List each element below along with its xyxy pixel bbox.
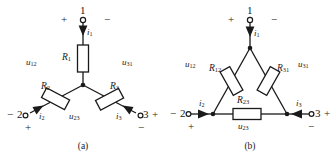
resistor-r3-label: R3 (110, 82, 119, 92)
resistor-r31-subscript: 31 (283, 66, 289, 73)
resistor-r1-label: R1 (62, 53, 71, 63)
resistor-r23-label: R23 (237, 96, 249, 106)
current-i3-label: i3 (116, 112, 121, 121)
panel-b-caption: (b) (167, 141, 333, 151)
voltage-u12-label: u12 (185, 60, 195, 69)
terminal-3-node (309, 112, 314, 117)
current-i3-subscript: 3 (119, 115, 122, 121)
voltage-u12-subscript: 12 (190, 63, 196, 69)
panel-a-caption: (a) (0, 141, 166, 151)
current-i1-label: i1 (87, 28, 92, 37)
terminal-1-node (80, 17, 85, 22)
voltage-u12-subscript: 12 (31, 61, 37, 67)
resistor-r31-label: R31 (277, 64, 289, 74)
resistor-r23-subscript: 23 (243, 98, 249, 105)
resistor-r2-label: R2 (41, 82, 50, 92)
terminal-2-sign-left: − (170, 108, 176, 119)
terminal-3-sign-below: − (308, 121, 314, 132)
current-i2-subscript: 2 (202, 102, 205, 108)
terminal-3-label: 3 (315, 108, 321, 119)
voltage-u31-label: u31 (298, 60, 308, 69)
circuit-diagram-wye: 1 + − i1 R1 u12 u31 R2 R3 − 2 + i2 u23 i… (0, 0, 166, 163)
resistor-r1-body (78, 45, 89, 72)
terminal-1-sign-left: + (228, 14, 234, 25)
terminal-1-sign-left: + (61, 14, 67, 25)
terminal-2-label: 2 (180, 108, 186, 119)
voltage-u12-label: u12 (26, 58, 36, 67)
voltage-u31-subscript: 31 (303, 63, 309, 69)
current-i3-label: i3 (296, 99, 301, 108)
resistor-r12-body (220, 67, 243, 96)
current-i3-subscript: 3 (299, 102, 302, 108)
current-i1-subscript: 1 (257, 32, 260, 38)
terminal-2-node (23, 113, 28, 118)
voltage-u31-label: u31 (122, 58, 132, 67)
current-arrow-i3 (291, 110, 302, 119)
resistor-r23-body (233, 109, 261, 120)
voltage-u31-subscript: 31 (127, 61, 133, 67)
circuit-diagram-delta: 1 + − i1 u12 u31 R12 R31 R23 u23 − 2 + i… (167, 0, 333, 163)
wye-circuit-svg (0, 0, 166, 140)
terminal-3-sign-below: − (138, 122, 144, 133)
terminal-3-sign-right: + (324, 108, 330, 119)
terminal-2-node (186, 112, 191, 117)
terminal-1-sign-right: − (271, 14, 277, 25)
terminal-2-label: 2 (17, 109, 23, 120)
terminal-3-label: 3 (143, 109, 149, 120)
terminal-2-sign-below: + (188, 121, 194, 132)
current-i1-subscript: 1 (90, 31, 93, 37)
terminal-1-label: 1 (80, 5, 86, 16)
current-arrow-i3 (123, 106, 134, 115)
resistor-r12-label: R12 (209, 64, 221, 74)
terminal-3-sign-right: + (152, 109, 158, 120)
current-i2-label: i2 (39, 112, 44, 121)
terminal-2-sign-left: − (7, 109, 13, 120)
current-i2-subscript: 2 (42, 115, 45, 121)
resistor-r1-subscript: 1 (68, 55, 71, 62)
voltage-u23-subscript: 23 (243, 125, 249, 131)
voltage-u23-label: u23 (238, 122, 248, 131)
resistor-r12-subscript: 12 (215, 66, 221, 73)
current-i1-label: i1 (254, 29, 259, 38)
terminal-1-node (247, 17, 252, 22)
resistor-r2-subscript: 2 (47, 84, 50, 91)
voltage-u23-subscript: 23 (74, 115, 80, 121)
voltage-u23-label: u23 (69, 112, 79, 121)
resistor-r3-subscript: 3 (116, 84, 119, 91)
current-arrow-i2 (198, 110, 209, 119)
delta-circuit-svg (167, 0, 333, 140)
figure-root: 1 + − i1 R1 u12 u31 R2 R3 − 2 + i2 u23 i… (0, 0, 333, 163)
terminal-2-sign-below: + (25, 122, 31, 133)
current-i2-label: i2 (199, 99, 204, 108)
terminal-1-sign-right: − (104, 14, 110, 25)
terminal-1-label: 1 (247, 5, 253, 16)
